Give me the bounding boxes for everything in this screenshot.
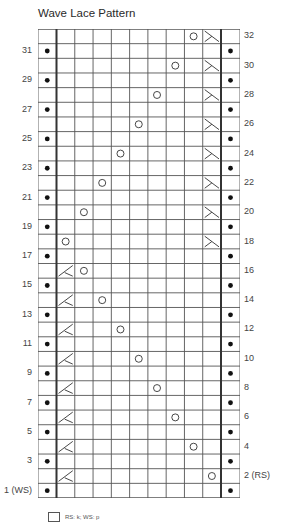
purl-dot-icon (228, 137, 233, 142)
row-label-right: 18 (244, 237, 254, 246)
decrease-left-icon (59, 383, 73, 394)
yarn-over-icon (99, 297, 106, 304)
row-label-left: 23 (0, 163, 32, 172)
purl-dot-icon (45, 312, 50, 317)
decrease-right-icon (205, 60, 219, 71)
row-label-left: 19 (0, 222, 32, 231)
row-label-right: 14 (244, 295, 254, 304)
row-label-right: 2 (RS) (244, 471, 270, 480)
purl-dot-icon (228, 459, 233, 464)
purl-dot-icon (228, 312, 233, 317)
row-label-left: 27 (0, 105, 32, 114)
chart-svg (38, 29, 240, 498)
yarn-over-icon (135, 355, 142, 362)
decrease-right-icon (205, 31, 219, 42)
decrease-left-icon (59, 471, 73, 482)
purl-dot-icon (45, 430, 50, 435)
yarn-over-icon (135, 121, 142, 128)
yarn-over-icon (62, 238, 69, 245)
yarn-over-icon (190, 33, 197, 40)
purl-dot-icon (228, 107, 233, 112)
decrease-left-icon (59, 324, 73, 335)
row-label-right: 30 (244, 61, 254, 70)
yarn-over-icon (117, 326, 124, 333)
legend: RS: k; WS: p (48, 512, 99, 522)
purl-dot-icon (228, 224, 233, 229)
purl-dot-icon (45, 137, 50, 142)
row-label-left: 29 (0, 75, 32, 84)
yarn-over-icon (154, 385, 161, 392)
row-label-left: 9 (0, 368, 32, 377)
row-label-right: 22 (244, 178, 254, 187)
decrease-right-icon (205, 119, 219, 130)
purl-dot-icon (228, 283, 233, 288)
purl-dot-icon (45, 49, 50, 54)
decrease-right-icon (205, 207, 219, 218)
decrease-left-icon (59, 412, 73, 423)
row-label-left: 3 (0, 456, 32, 465)
row-label-right: 20 (244, 207, 254, 216)
row-label-right: 32 (244, 31, 254, 40)
purl-dot-icon (45, 107, 50, 112)
row-label-right: 24 (244, 149, 254, 158)
purl-dot-icon (45, 400, 50, 405)
purl-dot-icon (228, 49, 233, 54)
purl-dot-icon (45, 459, 50, 464)
purl-dot-icon (228, 371, 233, 376)
row-label-right: 4 (244, 442, 249, 451)
row-label-left: 31 (0, 46, 32, 55)
row-label-left: 5 (0, 427, 32, 436)
purl-dot-icon (45, 371, 50, 376)
row-label-left: 15 (0, 280, 32, 289)
purl-dot-icon (228, 342, 233, 347)
row-label-right: 28 (244, 90, 254, 99)
purl-dot-icon (228, 78, 233, 83)
purl-dot-icon (45, 283, 50, 288)
yarn-over-icon (154, 91, 161, 98)
yarn-over-icon (117, 150, 124, 157)
knitting-chart-grid (38, 29, 240, 498)
row-label-left: 21 (0, 193, 32, 202)
purl-dot-icon (45, 195, 50, 200)
purl-dot-icon (45, 224, 50, 229)
row-label-left: 1 (WS) (0, 486, 32, 495)
purl-dot-icon (228, 430, 233, 435)
decrease-right-icon (205, 148, 219, 159)
yarn-over-icon (190, 443, 197, 450)
row-label-left: 11 (0, 339, 32, 348)
purl-dot-icon (45, 342, 50, 347)
yarn-over-icon (99, 179, 106, 186)
purl-dot-icon (228, 254, 233, 259)
row-label-right: 6 (244, 412, 249, 421)
row-label-right: 12 (244, 324, 254, 333)
decrease-left-icon (59, 295, 73, 306)
purl-dot-icon (45, 166, 50, 171)
row-label-right: 16 (244, 266, 254, 275)
purl-dot-icon (228, 195, 233, 200)
row-label-right: 10 (244, 354, 254, 363)
purl-dot-icon (228, 488, 233, 493)
legend-text: RS: k; WS: p (65, 514, 99, 520)
yarn-over-icon (80, 267, 87, 274)
row-label-left: 25 (0, 134, 32, 143)
row-label-left: 7 (0, 398, 32, 407)
decrease-right-icon (205, 178, 219, 189)
purl-dot-icon (45, 254, 50, 259)
row-label-right: 8 (244, 383, 249, 392)
row-label-right: 26 (244, 119, 254, 128)
yarn-over-icon (172, 414, 179, 421)
purl-dot-icon (45, 78, 50, 83)
chart-title: Wave Lace Pattern (38, 7, 135, 19)
decrease-right-icon (205, 236, 219, 247)
purl-dot-icon (228, 166, 233, 171)
yarn-over-icon (172, 62, 179, 69)
decrease-left-icon (59, 353, 73, 364)
row-label-left: 13 (0, 310, 32, 319)
purl-dot-icon (45, 488, 50, 493)
yarn-over-icon (208, 473, 215, 480)
decrease-right-icon (205, 90, 219, 101)
yarn-over-icon (80, 209, 87, 216)
row-label-left: 17 (0, 251, 32, 260)
decrease-left-icon (59, 441, 73, 452)
purl-dot-icon (228, 400, 233, 405)
